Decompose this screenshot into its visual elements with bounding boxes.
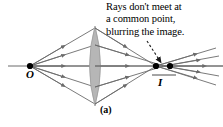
refracted-ray-arrowheads: [95, 28, 128, 104]
annotation-caption: Rays don't meet at a common point, blurr…: [106, 1, 222, 38]
object-point-label: O: [26, 68, 34, 80]
panel-label: (a): [100, 104, 112, 115]
annotation-line-2: a common point,: [106, 13, 222, 25]
caption-leader-arrow: [147, 41, 160, 61]
annotation-line-3: blurring the image.: [106, 26, 222, 38]
incident-ray-arrowheads: [30, 46, 64, 86]
optics-figure-panel-a: Rays don't meet at a common point, blurr…: [0, 0, 223, 127]
annotation-line-1: Rays don't meet at: [106, 1, 222, 13]
image-point-label: I: [158, 76, 162, 88]
image-point-far-dot: [167, 63, 173, 69]
image-point-near-dot: [153, 63, 159, 69]
